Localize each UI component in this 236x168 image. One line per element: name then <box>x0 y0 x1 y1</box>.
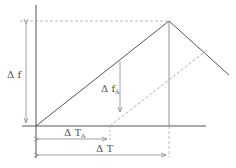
delta-fA-label: Δ fA <box>101 83 120 95</box>
ramp-diagram: Δ f Δ fA Δ TA Δ T <box>0 0 236 168</box>
delta-f-label: Δ f <box>7 69 22 80</box>
falling-ramp-line <box>169 21 229 75</box>
delayed-dashed-ramp <box>110 50 207 126</box>
delta-T-label: Δ T <box>96 143 113 154</box>
rising-ramp-line <box>36 21 169 126</box>
delta-TA-label: Δ TA <box>64 127 86 139</box>
